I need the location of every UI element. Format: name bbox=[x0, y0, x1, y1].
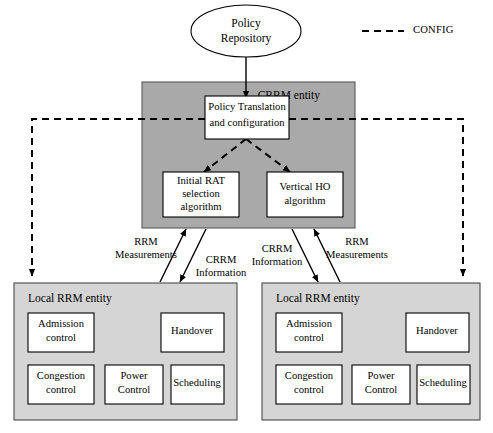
label-crrm-information-left-line2: Information bbox=[196, 267, 247, 278]
block-handover-right-line1: Handover bbox=[416, 325, 458, 336]
block-congestion-control-left-line1: Congestion bbox=[37, 370, 86, 381]
crrm-architecture-diagram: CRRM entity Local RRM entity Local RRM e… bbox=[0, 0, 493, 433]
block-congestion-control-right-line1: Congestion bbox=[285, 370, 334, 381]
initial-rat-line2: selection bbox=[182, 188, 220, 199]
block-scheduling-left-line1: Scheduling bbox=[173, 377, 221, 388]
label-rrm-measurements-left-line1: RRM bbox=[134, 236, 158, 247]
policy-translation-line1: Policy Translation bbox=[208, 101, 286, 112]
block-power-control-right-line2: Control bbox=[365, 384, 397, 395]
local-rrm-entity-right-label: Local RRM entity bbox=[276, 292, 360, 305]
label-crrm-information-right-line2: Information bbox=[252, 256, 303, 267]
block-scheduling-right-line1: Scheduling bbox=[419, 377, 467, 388]
label-rrm-measurements-left-line2: Measurements bbox=[115, 249, 177, 260]
block-admission-control-right-line1: Admission bbox=[286, 318, 333, 329]
vertical-ho-line1: Vertical HO bbox=[280, 181, 331, 192]
label-rrm-measurements-right-line2: Measurements bbox=[326, 249, 388, 260]
block-handover-left-line1: Handover bbox=[171, 325, 213, 336]
policy-repository-label-line2: Repository bbox=[221, 32, 272, 45]
block-congestion-control-right-line2: control bbox=[294, 384, 324, 395]
local-rrm-entity-left-label: Local RRM entity bbox=[28, 292, 112, 305]
policy-repository-label-line1: Policy bbox=[231, 17, 261, 30]
block-admission-control-left-line1: Admission bbox=[38, 318, 85, 329]
block-power-control-left-line1: Power bbox=[120, 370, 148, 381]
block-admission-control-right-line2: control bbox=[294, 332, 324, 343]
initial-rat-line1: Initial RAT bbox=[177, 175, 225, 186]
initial-rat-line3: algorithm bbox=[180, 201, 222, 212]
legend-config-label: CONFIG bbox=[413, 24, 454, 35]
policy-translation-line2: and configuration bbox=[209, 117, 285, 128]
label-crrm-information-left-line1: CRRM bbox=[206, 254, 237, 265]
block-congestion-control-left-line2: control bbox=[46, 384, 76, 395]
block-power-control-right-line1: Power bbox=[367, 370, 395, 381]
block-admission-control-left-line2: control bbox=[46, 332, 76, 343]
vertical-ho-line2: algorithm bbox=[284, 195, 326, 206]
label-crrm-information-right-line1: CRRM bbox=[262, 243, 293, 254]
label-rrm-measurements-right-line1: RRM bbox=[345, 236, 369, 247]
block-power-control-left-line2: Control bbox=[118, 384, 150, 395]
